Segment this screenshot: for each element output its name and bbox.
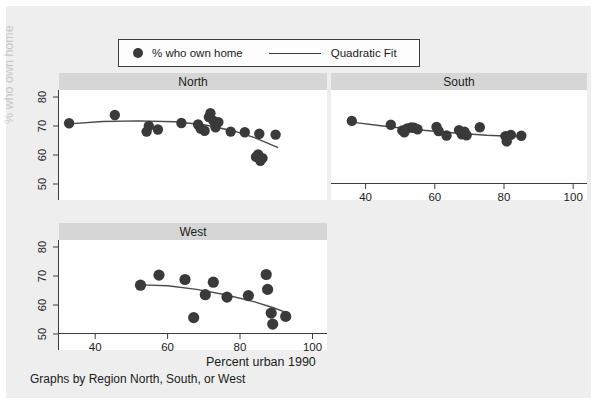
panel-west: West (59, 223, 327, 350)
data-point (516, 131, 526, 141)
y-tick-70-west: 70 (36, 270, 48, 282)
data-point (243, 290, 254, 301)
data-point (240, 127, 250, 137)
data-points-west (135, 269, 291, 330)
x-tick-60-west: 60 (161, 341, 174, 353)
data-point (179, 274, 190, 285)
data-point (347, 116, 357, 126)
x-tick-80-west: 80 (234, 341, 247, 353)
x-tick-80-south: 80 (498, 191, 511, 203)
data-point (386, 120, 396, 130)
y-tick-60-north: 60 (36, 149, 48, 161)
data-point (412, 124, 422, 134)
data-point (262, 284, 273, 295)
data-point (280, 311, 291, 322)
y-tick-80-west: 80 (36, 241, 48, 253)
y-axis-title: % who own home (2, 25, 16, 124)
scatter-svg-north (59, 90, 327, 200)
figure-canvas: % who own home Quadratic Fit % who own h… (6, 6, 591, 398)
y-tick-70-north: 70 (36, 120, 48, 132)
x-tick-100-south: 100 (564, 191, 583, 203)
data-point (144, 121, 154, 131)
x-tick-40-south: 40 (359, 191, 372, 203)
graph-note: Graphs by Region North, South, or West (30, 372, 245, 386)
data-point (266, 308, 277, 319)
filled-circle-marker-icon (133, 48, 143, 58)
data-point (110, 110, 120, 120)
x-axis-title: Percent urban 1990 (206, 355, 316, 369)
data-point (135, 280, 146, 291)
panel-title-north: North (59, 73, 327, 90)
legend-entry-fit: Quadratic Fit (243, 40, 397, 66)
legend-label-points: % who own home (152, 47, 243, 59)
data-points-south (347, 116, 527, 147)
panel-title-south: South (331, 73, 587, 90)
plot-area-north (59, 90, 327, 200)
legend-label-fit: Quadratic Fit (331, 47, 397, 59)
y-tick-60-west: 60 (36, 299, 48, 311)
panel-title-west: West (59, 223, 327, 240)
data-point (257, 153, 267, 163)
x-axis-south: 40 60 80 100 (331, 183, 587, 209)
y-tick-50-north: 50 (36, 178, 48, 190)
data-point (506, 130, 516, 140)
y-tick-80-north: 80 (36, 91, 48, 103)
y-tick-50-west: 50 (36, 328, 48, 340)
data-point (188, 312, 199, 323)
data-point (200, 289, 211, 300)
data-point (153, 270, 164, 281)
data-point (475, 122, 485, 132)
panel-south: South (331, 73, 587, 200)
panel-north: North (59, 73, 327, 200)
y-axis-west: 80 70 60 50 (30, 240, 60, 350)
data-point (461, 130, 471, 140)
data-point (270, 129, 280, 139)
data-point (261, 269, 272, 280)
data-point (441, 130, 451, 140)
data-point (226, 126, 236, 136)
data-points-north (64, 108, 281, 166)
line-marker-icon (269, 53, 321, 54)
chart-legend: % who own home Quadratic Fit (118, 39, 420, 67)
data-point (64, 118, 74, 128)
data-point (176, 118, 186, 128)
data-point (221, 292, 232, 303)
data-point (153, 124, 163, 134)
data-point (213, 117, 223, 127)
y-axis-north: 80 70 60 50 (30, 90, 60, 200)
data-point (208, 277, 219, 288)
x-tick-100-west: 100 (303, 341, 322, 353)
data-point (199, 126, 209, 136)
legend-entry-points: % who own home (119, 40, 243, 66)
data-point (254, 129, 264, 139)
data-point (267, 319, 278, 330)
x-tick-60-south: 60 (428, 191, 441, 203)
x-tick-40-west: 40 (89, 341, 102, 353)
